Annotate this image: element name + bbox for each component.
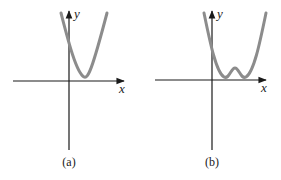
curve-a [61, 13, 107, 77]
panel-b: x y (b) [155, 6, 267, 169]
panel-a: x y (a) [13, 6, 125, 169]
y-axis-label: y [72, 6, 80, 21]
x-axis-label: x [118, 81, 125, 96]
curve-b [204, 13, 266, 77]
panel-caption: (b) [205, 155, 219, 169]
panel-caption: (a) [62, 155, 75, 169]
figure: x y (a) x y (b) [0, 0, 281, 180]
x-axis-label: x [260, 80, 267, 95]
y-axis-label: y [215, 6, 223, 21]
